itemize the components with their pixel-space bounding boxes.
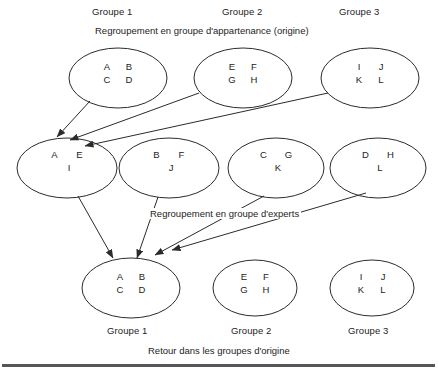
bottom-group-label-3: Groupe 3 (348, 325, 388, 336)
letter-cell: J (169, 162, 174, 173)
letter-cell: J (372, 270, 394, 283)
letter-cell: H (255, 283, 277, 296)
arrow-top1-to-expert1 (57, 101, 90, 137)
letter-cell: A (96, 60, 118, 73)
letter-cell: B (131, 270, 153, 283)
letter-cell: B (144, 148, 169, 161)
letter-cell: J (370, 60, 392, 73)
letter-cell: C (96, 73, 118, 86)
letter-cell: I (350, 270, 372, 283)
letter-cell: K (275, 162, 281, 173)
origin-top-3-letters: IJ KL (340, 60, 400, 86)
letter-cell: D (131, 283, 153, 296)
letter-cell: I (68, 162, 71, 173)
letter-cell: D (353, 148, 378, 161)
origin-bottom-3-letters: IJ KL (342, 270, 402, 296)
letter-cell: K (350, 283, 372, 296)
bottom-group-label-2: Groupe 2 (231, 325, 271, 336)
letter-cell: E (221, 60, 243, 73)
bottom-divider (2, 364, 435, 367)
origin-bottom-1-letters: AB CD (101, 270, 161, 296)
expert-3-letters: CG K (246, 148, 306, 174)
caption-return-to-origin: Retour dans les groupes d'origine (148, 345, 290, 356)
origin-top-2-letters: EF GH (213, 60, 273, 86)
diagram-canvas (0, 0, 438, 375)
origin-top-1-letters: AB CD (88, 60, 148, 86)
letter-cell: F (169, 148, 194, 161)
letter-cell: H (243, 73, 265, 86)
letter-cell: F (243, 60, 265, 73)
caption-expert-grouping: Regroupement en groupe d'experts (148, 208, 301, 219)
expert-2-letters: BF J (139, 148, 199, 174)
letter-cell: C (109, 283, 131, 296)
letter-cell: E (233, 270, 255, 283)
letter-cell: A (109, 270, 131, 283)
arrow-expert1-to-bottom1 (78, 196, 113, 258)
letter-cell: E (67, 148, 92, 161)
arrow-expert4-to-bottom1 (172, 193, 366, 250)
origin-bottom-2-letters: EF GH (225, 270, 285, 296)
letter-cell: G (276, 148, 301, 161)
letter-cell: B (118, 60, 140, 73)
letter-cell: I (348, 60, 370, 73)
letter-cell: G (221, 73, 243, 86)
bottom-group-label-1: Groupe 1 (107, 325, 147, 336)
arrow-expert3-to-bottom1 (155, 196, 264, 255)
expert-1-letters: AE I (37, 148, 97, 174)
letter-cell: A (42, 148, 67, 161)
letter-cell: F (255, 270, 277, 283)
letter-cell: K (348, 73, 370, 86)
expert-4-letters: DH L (348, 148, 408, 174)
letter-cell: L (370, 73, 392, 86)
letter-cell: D (118, 73, 140, 86)
letter-cell: L (372, 283, 394, 296)
letter-cell: L (377, 162, 382, 173)
letter-cell: G (233, 283, 255, 296)
jigsaw-grouping-diagram: Groupe 1 Groupe 2 Groupe 3 Regroupement … (0, 0, 438, 375)
arrow-expert2-to-bottom1 (137, 197, 158, 258)
letter-cell: H (378, 148, 403, 161)
letter-cell: C (251, 148, 276, 161)
